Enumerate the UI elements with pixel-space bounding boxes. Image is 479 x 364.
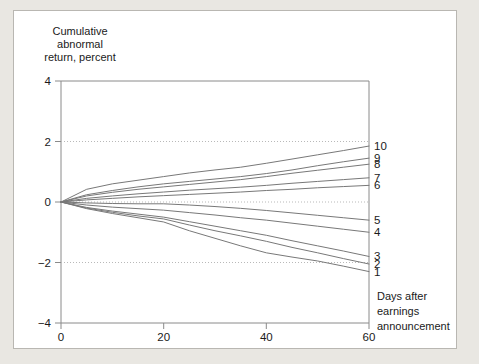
y-axis-ticks: 4 2 0 −2 −4 <box>38 75 61 329</box>
x-axis-title-line-3: announcement <box>377 320 450 332</box>
x-tick-label-20: 20 <box>157 331 170 343</box>
y-tick-label-0: 0 <box>45 196 51 208</box>
series-label-6: 6 <box>374 179 380 191</box>
x-axis-title-line-1: Days after <box>377 290 427 302</box>
series-line-1 <box>61 202 369 272</box>
y-axis-title-line-2: abnormal <box>57 38 103 50</box>
y-axis-title: Cumulative abnormal return, percent <box>44 25 116 63</box>
cumulative-abnormal-return-chart: Cumulative abnormal return, percent 4 2 … <box>14 11 456 348</box>
series-line-9 <box>61 158 369 202</box>
y-tick-label-neg4: −4 <box>38 317 52 329</box>
series-label-4: 4 <box>374 226 381 238</box>
series-line-2 <box>61 202 369 264</box>
series-label-8: 8 <box>374 158 380 170</box>
x-tick-label-60: 60 <box>363 331 376 343</box>
series-line-3 <box>61 202 369 256</box>
y-tick-label-2: 2 <box>45 136 51 148</box>
y-axis-title-line-1: Cumulative <box>52 25 107 37</box>
figure-panel: Cumulative abnormal return, percent 4 2 … <box>13 10 457 349</box>
series-label-10: 10 <box>374 140 387 152</box>
series-label-1: 1 <box>374 266 380 278</box>
y-axis-title-line-3: return, percent <box>44 51 116 63</box>
x-axis-ticks: 0 20 40 60 <box>58 323 376 343</box>
series-end-labels: 10987654321 <box>374 140 387 278</box>
x-tick-label-40: 40 <box>260 331 273 343</box>
y-tick-label-4: 4 <box>45 75 52 87</box>
x-tick-label-0: 0 <box>58 331 64 343</box>
series-lines <box>61 146 369 272</box>
x-axis-title-line-2: earnings <box>377 305 420 317</box>
y-tick-label-neg2: −2 <box>38 257 51 269</box>
x-axis-title: Days after earnings announcement <box>377 290 450 332</box>
series-label-5: 5 <box>374 214 380 226</box>
series-line-6 <box>61 185 369 202</box>
gridlines <box>61 142 369 263</box>
